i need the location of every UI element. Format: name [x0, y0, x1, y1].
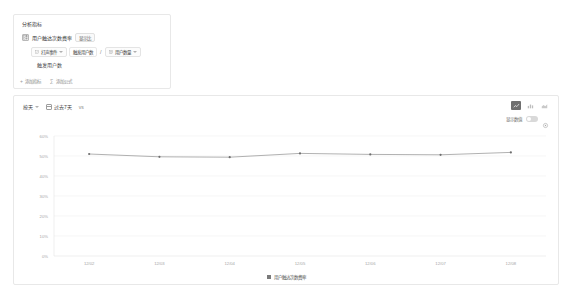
legend-label[interactable]: 用户触达次数费率 [274, 274, 306, 280]
sigma-icon: ∑ [50, 79, 54, 84]
metric-display-tag[interactable]: 显示比 [75, 33, 95, 42]
granularity-label: 按天 [23, 103, 33, 110]
line-chart-icon[interactable] [511, 101, 521, 110]
series-data-point[interactable] [369, 153, 371, 155]
calendar-icon [46, 104, 52, 110]
series-data-point[interactable] [439, 154, 441, 156]
date-range-picker[interactable]: 过去7天 [46, 103, 72, 110]
numerator-value-chip[interactable]: 触发用户数 [69, 47, 97, 57]
app-root: 分析指标 用户触达次数费率 显示比 [0, 0, 575, 298]
x-axis-tick-label: 12/08 [506, 261, 517, 266]
metric-formula-row: 打声事件 触发用户数 / 用户数量 [31, 47, 141, 57]
denominator-label: 用户数量 [115, 49, 131, 55]
compare-label[interactable]: vs [79, 104, 84, 110]
chart-display-controls: 显示数值 [506, 115, 549, 122]
panel-title: 分析指标 [22, 20, 42, 27]
grid-icon [22, 34, 29, 41]
x-axis-tick-label: 12/02 [84, 261, 95, 266]
analysis-metrics-panel: 分析指标 用户触达次数费率 显示比 [13, 14, 171, 89]
formula-operator: / [99, 49, 103, 55]
line-chart-svg: 60%50%40%30%20%10%0% 12/0212/0312/0412/0… [14, 128, 560, 286]
numerator-event-label: 打声事件 [41, 49, 57, 55]
chart-toolbar: 按天 过去7天 vs [14, 96, 558, 128]
series-data-point[interactable] [510, 151, 512, 153]
panel-action-links: + 添加指标 ∑ 添加公式 [20, 78, 72, 84]
denominator-chip[interactable]: 用户数量 [105, 47, 141, 57]
date-range-label: 过去7天 [54, 103, 72, 110]
add-metric-label: 添加指标 [25, 78, 41, 84]
chart-series-group [88, 151, 512, 158]
y-axis-tick-label: 20% [40, 214, 49, 219]
sub-metric-label[interactable]: 触发用户数 [37, 61, 62, 68]
granularity-select[interactable]: 按天 [23, 103, 39, 110]
y-axis-tick-label: 50% [40, 154, 49, 159]
metric-name: 用户触达次数费率 [32, 34, 72, 41]
event-icon [35, 50, 39, 55]
chart-x-axis-labels: 12/0212/0312/0412/0512/0612/0712/08 [84, 261, 517, 266]
metric-definition-row[interactable]: 用户触达次数费率 显示比 [22, 33, 95, 42]
x-axis-tick-label: 12/07 [435, 261, 446, 266]
y-axis-tick-label: 30% [40, 194, 49, 199]
gear-icon[interactable] [542, 115, 549, 122]
show-values-label: 显示数值 [506, 116, 522, 122]
x-axis-tick-label: 12/06 [365, 261, 376, 266]
add-formula-button[interactable]: ∑ 添加公式 [50, 78, 72, 84]
x-axis-tick-label: 12/04 [224, 261, 235, 266]
series-data-point[interactable] [88, 153, 90, 155]
chevron-down-icon [133, 51, 137, 53]
series-data-point[interactable] [158, 156, 160, 158]
y-axis-tick-label: 10% [40, 234, 49, 239]
numerator-event-chip[interactable]: 打声事件 [31, 47, 67, 57]
bar-chart-icon[interactable] [525, 101, 535, 110]
legend-swatch [267, 275, 271, 279]
y-axis-tick-label: 40% [40, 174, 49, 179]
x-axis-tick-label: 12/03 [154, 261, 165, 266]
x-axis-tick-label: 12/05 [295, 261, 306, 266]
add-formula-label: 添加公式 [56, 78, 72, 84]
chart-legend: 用户触达次数费率 [14, 274, 558, 280]
chart-toolbar-left: 按天 过去7天 vs [23, 103, 84, 110]
series-data-point[interactable] [299, 152, 301, 154]
chevron-down-icon [59, 51, 63, 53]
area-chart-icon[interactable] [539, 101, 549, 110]
series-data-point[interactable] [229, 156, 231, 158]
chevron-down-icon [35, 106, 39, 108]
chart-plot-area[interactable]: 60%50%40%30%20%10%0% 12/0212/0312/0412/0… [14, 128, 560, 286]
chart-panel: 按天 过去7天 vs [13, 95, 559, 285]
user-icon [109, 50, 113, 55]
y-axis-tick-label: 0% [42, 254, 48, 259]
add-metric-button[interactable]: + 添加指标 [20, 78, 41, 84]
chart-type-toggle-group [511, 101, 549, 110]
show-values-toggle[interactable] [526, 116, 538, 122]
plus-icon: + [20, 79, 23, 84]
chart-y-axis-labels: 60%50%40%30%20%10%0% [40, 134, 49, 259]
y-axis-tick-label: 60% [40, 134, 49, 139]
